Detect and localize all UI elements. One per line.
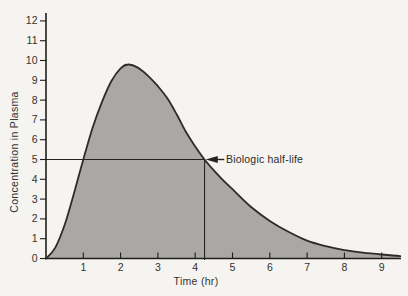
y-tick-label: 7 xyxy=(32,113,38,125)
y-axis-title: Concentration in Plasma xyxy=(8,91,20,212)
x-tick-label: 5 xyxy=(230,261,236,273)
y-tick-label: 5 xyxy=(32,153,38,165)
x-tick-label: 9 xyxy=(379,261,385,273)
x-tick-label: 8 xyxy=(341,261,347,273)
x-tick-label: 3 xyxy=(155,261,161,273)
y-tick-label: 0 xyxy=(32,252,38,264)
x-tick-label: 1 xyxy=(80,261,86,273)
y-tick-label: 2 xyxy=(32,212,38,224)
pharmacokinetics-figure: 1234567890123456789101112 Concentration … xyxy=(0,0,408,296)
y-tick-label: 3 xyxy=(32,193,38,205)
half-life-annotation-label: Biologic half-life xyxy=(226,153,303,165)
x-tick-label: 7 xyxy=(304,261,310,273)
x-tick-label: 4 xyxy=(192,261,198,273)
y-tick-label: 6 xyxy=(32,133,38,145)
y-tick-label: 9 xyxy=(32,74,38,86)
x-tick-label: 6 xyxy=(267,261,273,273)
x-tick-label: 2 xyxy=(118,261,124,273)
figure-page: 1234567890123456789101112 Concentration … xyxy=(0,0,408,296)
y-tick-label: 1 xyxy=(32,232,38,244)
y-tick-label: 4 xyxy=(32,173,38,185)
y-tick-label: 11 xyxy=(27,34,38,46)
curve-area-fill xyxy=(46,64,400,258)
x-axis-title: Time (hr) xyxy=(174,275,219,287)
y-tick-label: 8 xyxy=(32,94,38,106)
plasma-concentration-chart: 1234567890123456789101112 xyxy=(0,0,408,296)
y-tick-label: 10 xyxy=(26,54,38,66)
y-tick-label: 12 xyxy=(26,14,38,26)
